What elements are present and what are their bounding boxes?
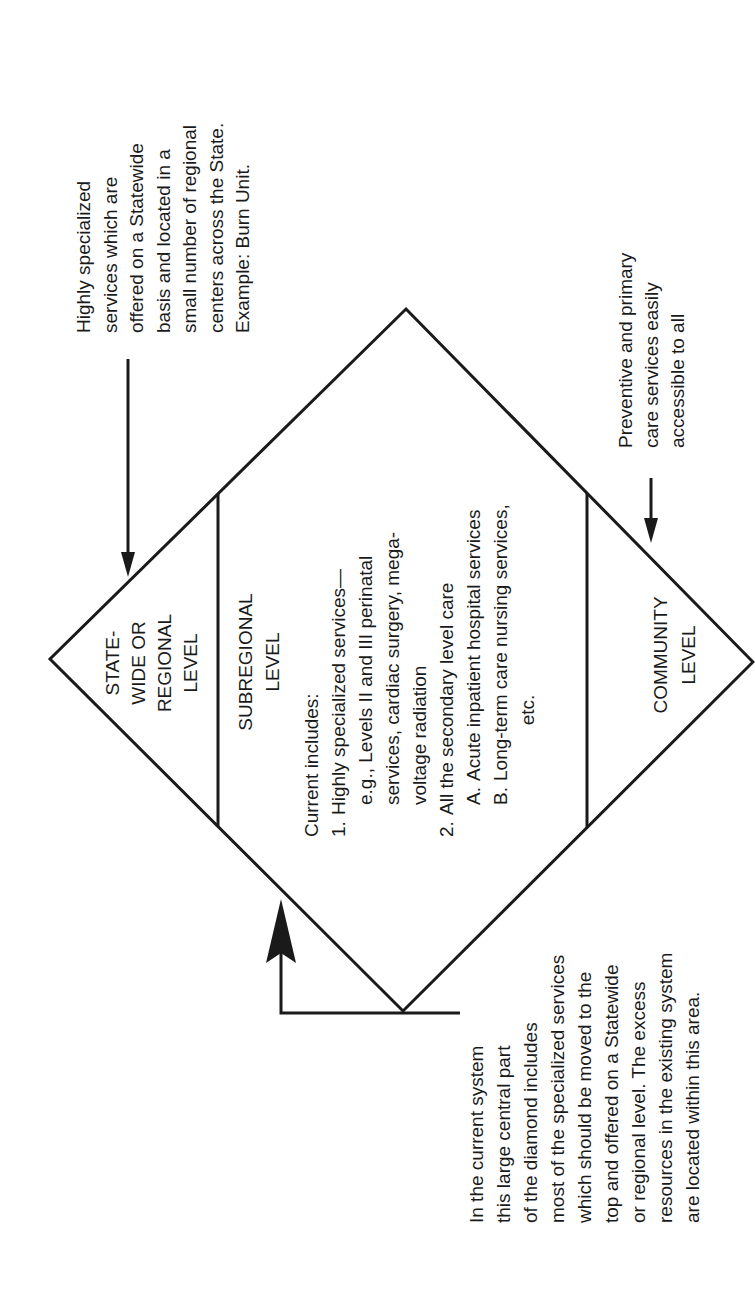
subitem-text: Long-term care nursing services, [490, 504, 511, 781]
label-subregional-level: SUBREGIONAL LEVEL [235, 593, 283, 730]
label-line: REGIONAL [154, 614, 175, 712]
label-community-level: COMMUNITY LEVEL [650, 596, 699, 713]
annotation-line: Preventive and primary [615, 252, 636, 448]
annotation-line: resources in the existing system [655, 953, 676, 1223]
item-number: 2. [436, 821, 457, 837]
annotation-line: offered on a Statewide [126, 143, 147, 333]
subitem-text: Acute inpatient hospital services [463, 510, 484, 781]
label-line: LEVEL [262, 632, 283, 691]
item-text: All the secondary level care [436, 583, 457, 815]
subregional-description: Current includes: 1. Highly specialized … [301, 504, 538, 837]
annotation-line: which should be moved to the [574, 972, 595, 1224]
label-line: WIDE OR [128, 621, 149, 704]
annotation-line: top and offered on a Statewide [601, 965, 622, 1223]
annotation-line: services which are [100, 177, 121, 333]
annotation-line: In the current system [466, 1046, 487, 1223]
annotation-line: centers across the State. [206, 123, 227, 333]
annotation-preventive-primary: Preventive and primary care services eas… [615, 252, 688, 448]
subitem-letter: B. [490, 787, 511, 805]
annotation-line: Highly specialized [73, 181, 94, 333]
annotation-line: small number of regional [179, 125, 200, 333]
annotation-line: are located within this area. [682, 992, 703, 1223]
subitem-letter: A. [463, 787, 484, 805]
label-line: LEVEL [678, 625, 699, 684]
item-text: services, cardiac surgery, mega- [382, 532, 403, 805]
arrow-to-community-level [644, 478, 658, 543]
label-line: SUBREGIONAL [235, 593, 256, 730]
annotation-line: basis and located in a [153, 149, 174, 333]
label-line: LEVEL [180, 633, 201, 692]
item-text: e.g., Levels II and III perinatal [355, 556, 376, 805]
label-line: COMMUNITY [650, 596, 671, 713]
item-text: voltage radiation [409, 666, 430, 805]
health-services-diamond-diagram: STATE- WIDE OR REGIONAL LEVEL SUBREGIONA… [0, 0, 755, 1295]
trailing-text: etc. [517, 695, 538, 726]
annotation-line: care services easily [641, 282, 662, 448]
annotation-highly-specialized: Highly specialized services which are of… [73, 123, 253, 333]
annotation-current-system: In the current system this large central… [466, 953, 703, 1224]
annotation-line: most of the specialized services [547, 955, 568, 1223]
arrow-to-top-level [121, 359, 135, 577]
item-text: Highly specialized services— [328, 569, 349, 815]
annotation-line: of the diamond includes [520, 1022, 541, 1223]
label-line: STATE- [102, 631, 123, 696]
intro-text: Current includes: [301, 693, 322, 837]
annotation-line: accessible to all [667, 314, 688, 448]
annotation-line: or regional level. The excess [628, 982, 649, 1224]
annotation-line: this large central part [493, 1045, 514, 1223]
arrow-move-up [266, 899, 460, 1013]
label-statewide-regional-level: STATE- WIDE OR REGIONAL LEVEL [102, 614, 201, 712]
item-number: 1. [328, 821, 349, 837]
annotation-line: Example: Burn Unit. [232, 164, 253, 333]
